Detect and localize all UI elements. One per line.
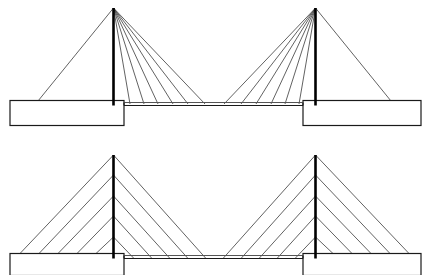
harp-right-backstay-1: [316, 155, 410, 254]
deck-right-abutment: [303, 101, 421, 126]
harp-right-backstay-2: [316, 175, 391, 254]
fan-cable-group: [38, 8, 391, 104]
deck-left-abutment: [10, 101, 124, 126]
harp-left-forestay-3: [114, 196, 171, 259]
harp-configuration-bridge: [10, 155, 421, 275]
fan-right-forestay-2: [285, 8, 316, 104]
deck-left-abutment: [10, 254, 124, 275]
harp-cable-group: [20, 155, 409, 259]
harp-left-forestay-1: [114, 155, 207, 259]
harp-right-backstay-4: [316, 216, 353, 254]
fan-right-backstay-1: [316, 8, 392, 101]
fan-right-forestay-5: [241, 8, 316, 104]
fan-right-forestay-4: [256, 8, 316, 104]
harp-tower-group: [114, 155, 316, 259]
harp-left-forestay-4: [114, 216, 153, 259]
harp-left-backstay-1: [20, 155, 114, 254]
harp-left-backstay-4: [77, 216, 114, 254]
deck-right-abutment: [303, 254, 421, 275]
fan-left-forestay-5: [114, 8, 189, 104]
fan-left-backstay-1: [38, 8, 114, 101]
harp-left-backstay-5: [96, 237, 114, 254]
bridge-diagram-figure: [0, 0, 434, 275]
fan-left-forestay-4: [114, 8, 174, 104]
fan-left-forestay-2: [114, 8, 145, 104]
harp-deck-group: [10, 254, 421, 275]
harp-right-forestay-4: [277, 216, 316, 259]
harp-right-backstay-5: [316, 237, 334, 254]
harp-left-backstay-2: [39, 175, 114, 254]
bridge-diagram-svg: [0, 0, 434, 275]
fan-right-forestay-3: [271, 8, 316, 104]
harp-right-forestay-2: [241, 175, 316, 259]
harp-left-forestay-2: [114, 175, 189, 259]
harp-right-forestay-1: [223, 155, 316, 259]
harp-right-forestay-3: [259, 196, 316, 259]
fan-left-forestay-3: [114, 8, 159, 104]
fan-configuration-bridge: [10, 8, 421, 126]
fan-deck-group: [10, 101, 421, 126]
